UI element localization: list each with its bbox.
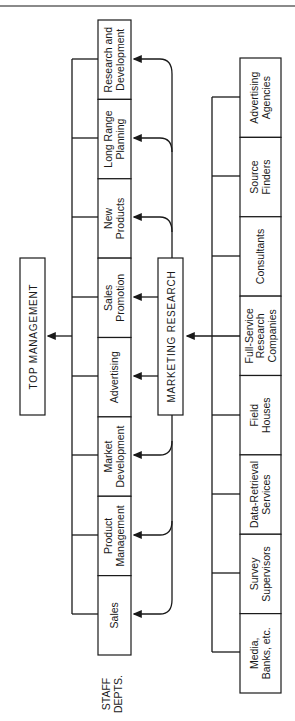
staff-dept-label: Market: [102, 440, 114, 472]
staff-dept-label: Sales: [108, 602, 120, 628]
svg-text:STAFF: STAFF: [100, 678, 112, 710]
external-source-label: Companies: [266, 309, 278, 362]
staff-dept-node: MarketDevelopment: [98, 417, 131, 496]
external-source-label: Field: [248, 404, 260, 427]
external-source-node: Full-ServiceResearchCompanies: [240, 296, 281, 375]
external-source-label: Agencies: [260, 76, 272, 119]
staff-dept-label: New: [102, 208, 114, 229]
external-source-label: Consultants: [254, 229, 266, 284]
external-source-label: Research: [254, 313, 266, 358]
external-source-label: Supervisors: [260, 546, 272, 601]
external-source-label: Services: [260, 474, 272, 514]
staff-dept-node: ProductManagement: [98, 496, 131, 575]
marketing-research-org-diagram: TOP MANAGEMENT Research andDevelopmentLo…: [0, 0, 295, 721]
external-source-node: Media,Banks, etc.: [240, 614, 281, 693]
staff-dept-node: Sales: [98, 576, 131, 655]
staff-depts-column: Research andDevelopmentLong RangePlannin…: [98, 20, 131, 655]
staff-dept-node: Research andDevelopment: [98, 20, 131, 99]
external-source-label: Source: [248, 160, 260, 193]
external-source-label: Data-Retrieval: [248, 461, 260, 528]
external-source-label: Finders: [260, 160, 272, 195]
staff-dept-node: NewProducts: [98, 179, 131, 258]
staff-depts-label: STAFF DEPTS.: [100, 675, 124, 713]
external-source-label: Full-Service: [243, 308, 255, 364]
staff-dept-label: Development: [114, 426, 126, 488]
marketing-research-label: MARKETING RESEARCH: [166, 270, 177, 402]
external-source-node: FieldHouses: [240, 376, 281, 455]
staff-dept-label: Long Range: [102, 110, 114, 167]
top-management-node: TOP MANAGEMENT: [20, 258, 45, 415]
marketing-research-node: MARKETING RESEARCH: [158, 258, 183, 415]
staff-dept-node: Advertising: [98, 338, 131, 417]
external-source-node: Consultants: [240, 217, 281, 296]
external-source-label: Advertising: [248, 72, 260, 124]
external-source-node: SurveySupervisors: [240, 534, 281, 613]
svg-text:DEPTS.: DEPTS.: [112, 675, 124, 713]
staff-dept-label: Management: [114, 505, 126, 566]
top-management-label: TOP MANAGEMENT: [28, 284, 39, 390]
external-source-label: Survey: [248, 557, 260, 590]
external-source-node: SourceFinders: [240, 137, 281, 216]
external-source-node: Data-RetrievalServices: [240, 455, 281, 534]
external-sources-column: AdvertisingAgenciesSourceFindersConsulta…: [240, 58, 281, 693]
staff-dept-label: Products: [114, 198, 126, 239]
staff-dept-label: Promotion: [114, 274, 126, 322]
staff-bracket: [48, 59, 98, 614]
staff-dept-node: SalesPromotion: [98, 258, 131, 337]
external-source-node: AdvertisingAgencies: [240, 58, 281, 137]
staff-dept-label: Advertising: [108, 351, 120, 403]
staff-dept-node: Long RangePlanning: [98, 99, 131, 178]
external-source-label: Media,: [248, 638, 260, 670]
staff-dept-label: Research and: [102, 27, 114, 93]
staff-dept-label: Development: [114, 29, 126, 91]
external-source-label: Banks, etc.: [260, 627, 272, 679]
staff-dept-label: Product: [102, 518, 114, 554]
external-source-label: Houses: [260, 397, 272, 433]
staff-dept-label: Sales: [102, 285, 114, 311]
staff-dept-label: Planning: [114, 118, 126, 159]
sources-bracket: [187, 97, 240, 652]
